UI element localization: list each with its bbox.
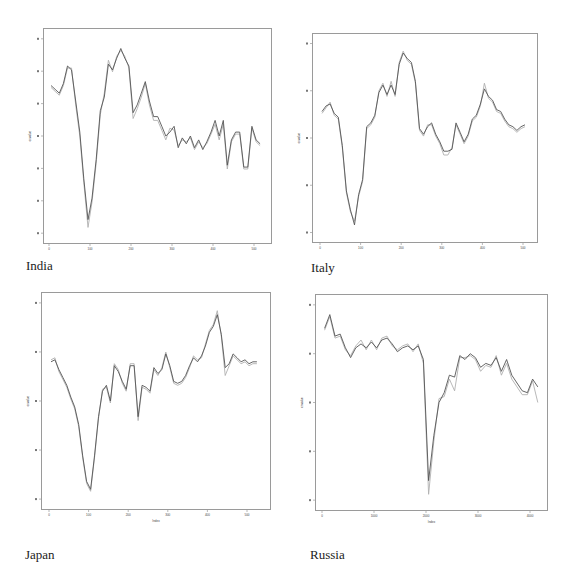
y-tick-label: [309, 450, 311, 452]
y-axis-title: cnvalue: [300, 397, 304, 408]
y-tick-label: [309, 402, 311, 404]
series-line-actual: [325, 315, 538, 481]
x-tick-label: 0: [321, 514, 323, 518]
x-tick-label: 1000: [371, 514, 378, 518]
x-tick-label: 3000: [475, 514, 482, 518]
x-tick-label: 4000: [527, 514, 534, 518]
y-tick-label: [309, 304, 311, 306]
chart-russia: 01000200030004000cnvalueIndex: [0, 0, 571, 571]
y-tick-label: [309, 499, 311, 501]
x-tick-label: 2000: [423, 514, 430, 518]
series-line-predicted: [325, 317, 538, 495]
caption-russia: Russia: [310, 547, 345, 563]
y-tick-label: [309, 353, 311, 355]
x-axis-title: Index: [428, 520, 436, 524]
